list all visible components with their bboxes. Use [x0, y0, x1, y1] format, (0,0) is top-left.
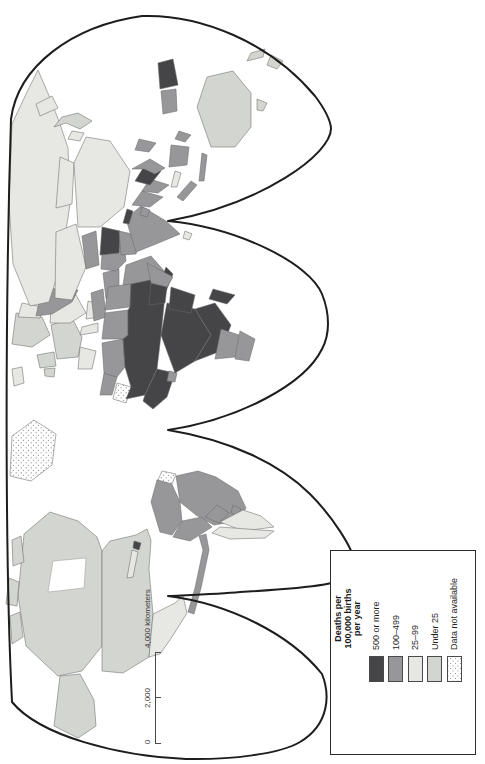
region-java [199, 153, 207, 181]
legend-label-under-25: Under 25 [430, 613, 440, 650]
hudson-bay [48, 558, 86, 592]
figure-maternal-mortality-map: 0 2,000 4,000 kilometers Deaths per 100,… [0, 0, 485, 764]
region-australia [197, 71, 251, 147]
legend-swatch-under-25 [427, 656, 442, 682]
region-italy [80, 323, 98, 335]
region-sri-lanka [183, 231, 192, 240]
region-korea [68, 131, 84, 141]
region-kazakhstan [55, 224, 86, 300]
legend-rows: 500 or more 100–499 25–99 Under 25 [367, 555, 465, 682]
legend-swatch-500-or-more [369, 656, 384, 682]
legend-title: Deaths per 100,000 births per year [334, 555, 363, 682]
region-myanmar [132, 191, 163, 207]
region-kenya-tanzania [169, 287, 195, 313]
scale-label-0: 0 [143, 737, 152, 747]
region-arctic-island [12, 536, 24, 566]
scale-tick [155, 697, 161, 698]
region-west-europe [51, 318, 82, 359]
region-india [126, 206, 180, 252]
rotated-map-canvas: 0 2,000 4,000 kilometers Deaths per 100,… [0, 0, 485, 764]
region-egypt [105, 284, 131, 310]
region-uk [37, 352, 56, 368]
scale-label-4000-km: 4,000 kilometers [143, 589, 152, 648]
region-sumatra [177, 181, 197, 201]
scale-label-2000: 2,000 [143, 681, 152, 715]
region-china [74, 137, 130, 227]
region-alaska [54, 674, 96, 738]
region-ireland [44, 368, 55, 377]
region-philippines [135, 139, 156, 152]
region-malaysia [171, 171, 181, 187]
region-borneo [169, 145, 189, 167]
region-madagascar [209, 289, 235, 304]
region-libya [102, 310, 128, 339]
region-papua-new-guinea [158, 59, 178, 89]
legend-label-100-499: 100–499 [391, 615, 401, 650]
region-scandinavia [12, 313, 50, 347]
region-chile [212, 527, 274, 539]
region-west-papua [161, 89, 177, 114]
legend-swatch-25-99 [408, 656, 423, 682]
scale-tick [155, 652, 161, 653]
legend-row-data-not-available: Data not available [445, 555, 465, 682]
region-iceland [12, 367, 24, 386]
region-tasmania [257, 99, 267, 111]
legend-swatch-100-499 [388, 656, 403, 682]
legend-row-500-or-more: 500 or more [367, 555, 387, 682]
region-greenland [10, 420, 56, 481]
legend-label-data-not-available: Data not available [449, 578, 459, 650]
region-turkey [91, 289, 106, 321]
legend-title-line-3: per year [353, 555, 363, 682]
region-sulawesi [175, 131, 191, 142]
legend-row-under-25: Under 25 [425, 555, 445, 682]
legend-label-500-or-more: 500 or more [371, 601, 381, 650]
scale-tick [155, 743, 161, 744]
legend-row-100-499: 100–499 [386, 555, 406, 682]
region-iberia [78, 347, 96, 369]
scale-bar: 0 2,000 4,000 kilometers [140, 574, 164, 744]
legend-label-25-99: 25–99 [410, 625, 420, 650]
region-afghanistan [100, 227, 120, 255]
legend-row-25-99: 25–99 [406, 555, 426, 682]
map-legend: Deaths per 100,000 births per year 500 o… [330, 550, 476, 755]
region-canada [18, 512, 102, 676]
legend-swatch-data-not-available [447, 656, 462, 682]
region-algeria [102, 339, 125, 377]
